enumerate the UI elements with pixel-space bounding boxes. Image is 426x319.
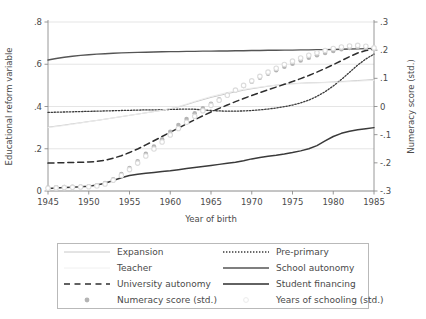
data-point — [298, 56, 303, 61]
data-point — [111, 178, 116, 183]
x-axis-ticks: 194519501955196019651970197519801985 — [37, 191, 385, 207]
data-point — [217, 98, 222, 103]
y-tick-label-left: .8 — [34, 17, 42, 27]
chart-legend: ExpansionPre-primaryTeacherSchool autono… — [57, 243, 369, 309]
chart-figure: 0.2.4.6.8 .3.2.10-.1-.2-.3 1945195019551… — [0, 0, 426, 319]
data-point — [127, 167, 132, 172]
data-point — [103, 182, 108, 187]
data-point — [323, 48, 328, 53]
data-point — [250, 79, 255, 84]
y-axis-right-ticks: .3.2.10-.1-.2-.3 — [374, 17, 391, 196]
legend-label: Student financing — [271, 279, 356, 289]
data-point — [355, 43, 360, 48]
y-tick-label-right: .1 — [380, 73, 388, 83]
data-point — [364, 44, 369, 49]
data-point — [87, 185, 92, 190]
data-point — [201, 108, 206, 113]
legend-item[interactable]: Years of schooling (std.) — [217, 292, 384, 308]
line-series — [48, 128, 374, 189]
data-point — [315, 50, 320, 55]
y-tick-label-left: .6 — [34, 59, 42, 69]
data-point — [225, 93, 230, 98]
data-point — [282, 62, 287, 67]
data-point — [241, 83, 246, 88]
data-point — [135, 161, 140, 166]
legend-label: Teacher — [112, 263, 152, 273]
data-point — [290, 59, 295, 64]
legend-item[interactable]: School autonomy — [217, 260, 384, 276]
data-point — [78, 185, 83, 190]
data-point — [339, 45, 344, 50]
legend-item[interactable]: University autonomy — [58, 276, 217, 292]
legend-key-icon — [62, 246, 112, 258]
data-point — [152, 147, 157, 152]
data-point — [209, 103, 214, 108]
y-axis-left-ticks: 0.2.4.6.8 — [34, 17, 48, 196]
y-tick-label-right: -.3 — [380, 186, 391, 196]
legend-item[interactable]: Teacher — [58, 260, 217, 276]
y-tick-label-left: 0 — [37, 186, 42, 196]
legend-key-icon — [221, 262, 271, 274]
x-tick-label: 1960 — [159, 197, 181, 207]
scatter-series — [46, 45, 377, 190]
legend-label: University autonomy — [112, 279, 211, 289]
data-point — [184, 120, 189, 125]
x-tick-label: 1970 — [241, 197, 263, 207]
legend-key-icon — [221, 278, 271, 290]
x-axis-title: Year of birth — [184, 214, 237, 224]
data-point — [54, 186, 59, 191]
x-tick-label: 1955 — [119, 197, 141, 207]
legend-key-icon — [221, 294, 271, 306]
x-tick-label: 1950 — [78, 197, 100, 207]
y-tick-label-left: .2 — [34, 144, 42, 154]
data-point — [192, 114, 197, 119]
y-tick-label-right: .2 — [380, 45, 388, 55]
y-axis-title-left: Educational reform variable — [4, 48, 14, 166]
x-tick-label: 1965 — [200, 197, 222, 207]
y-tick-label-right: -.1 — [380, 130, 391, 140]
x-tick-label: 1945 — [37, 197, 59, 207]
data-point — [347, 44, 352, 49]
line-chart-svg: 0.2.4.6.8 .3.2.10-.1-.2-.3 1945195019551… — [0, 0, 426, 232]
legend-label: Expansion — [112, 247, 163, 257]
y-tick-label-right: .3 — [380, 17, 388, 27]
data-series-group — [46, 43, 377, 190]
data-point — [160, 140, 165, 145]
x-tick-label: 1985 — [363, 197, 385, 207]
legend-key-icon — [221, 246, 271, 258]
data-point — [233, 88, 238, 93]
y-axis-title-right: Numeracy score (std.) — [406, 59, 416, 153]
scatter-series — [46, 43, 377, 190]
legend-label: Numeracy score (std.) — [112, 295, 217, 305]
data-point — [372, 46, 377, 51]
legend-item[interactable]: Student financing — [217, 276, 384, 292]
y-tick-label-left: .4 — [34, 102, 42, 112]
x-tick-label: 1975 — [282, 197, 304, 207]
legend-key-icon — [62, 294, 112, 306]
data-point — [266, 70, 271, 75]
data-point — [176, 126, 181, 131]
plot-area-wrapper: 0.2.4.6.8 .3.2.10-.1-.2-.3 1945195019551… — [0, 0, 426, 232]
data-point — [95, 184, 100, 189]
y-tick-label-right: 0 — [380, 102, 385, 112]
data-point — [307, 53, 312, 58]
legend-key-icon — [62, 262, 112, 274]
data-point — [274, 66, 279, 71]
legend-grid: ExpansionPre-primaryTeacherSchool autono… — [58, 244, 368, 308]
x-tick-label: 1980 — [322, 197, 344, 207]
legend-item[interactable]: Expansion — [58, 244, 217, 260]
data-point — [62, 185, 67, 190]
legend-label: Years of schooling (std.) — [271, 295, 384, 305]
data-point — [258, 74, 263, 79]
legend-key-icon — [62, 278, 112, 290]
legend-label: Pre-primary — [271, 247, 329, 257]
data-point — [70, 185, 75, 190]
y-tick-label-right: -.2 — [380, 158, 391, 168]
data-point — [119, 173, 124, 178]
data-point — [144, 154, 149, 159]
legend-item[interactable]: Numeracy score (std.) — [58, 292, 217, 308]
legend-item[interactable]: Pre-primary — [217, 244, 384, 260]
data-point — [46, 186, 51, 191]
data-point — [168, 133, 173, 138]
legend-label: School autonomy — [271, 263, 354, 273]
